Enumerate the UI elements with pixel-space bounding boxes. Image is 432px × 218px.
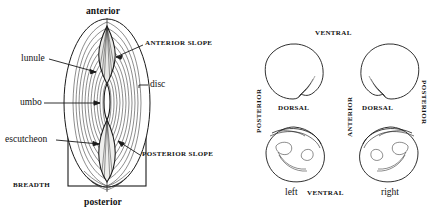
valve-exterior-left	[265, 44, 323, 99]
bivalve-anatomy-figure: anterior posterior lunule umbo escutcheo…	[0, 0, 432, 218]
label-dorsal-left: DORSAL	[278, 105, 309, 112]
label-right-valve: right	[381, 188, 399, 198]
label-dorsal-right: DORSAL	[362, 105, 393, 112]
label-ventral-bottom: VENTRAL	[307, 190, 344, 197]
right-valve-views	[265, 44, 419, 182]
label-left-valve: left	[285, 188, 298, 198]
valve-exterior-right	[361, 44, 419, 99]
label-posterior-right: POSTERIOR	[420, 80, 427, 124]
valve-interior-right	[360, 127, 418, 182]
label-posterior-left: POSTERIOR	[256, 89, 263, 133]
label-lunule: lunule	[21, 54, 45, 64]
label-anterior: anterior	[86, 7, 120, 17]
label-umbo: umbo	[20, 98, 42, 108]
label-disc: disc	[150, 80, 165, 90]
label-ventral-top: VENTRAL	[315, 30, 352, 37]
label-anterior-slope: ANTERIOR SLOPE	[145, 40, 212, 47]
label-posterior: posterior	[84, 198, 122, 208]
label-breadth: BREADTH	[13, 182, 50, 189]
label-anterior-center: ANTERIOR	[347, 96, 354, 137]
label-posterior-slope: POSTERIOR SLOPE	[142, 151, 213, 158]
left-dorsal-shell-drawing	[44, 18, 150, 192]
label-escutcheon: escutcheon	[5, 135, 47, 145]
valve-interior-left	[266, 127, 324, 182]
